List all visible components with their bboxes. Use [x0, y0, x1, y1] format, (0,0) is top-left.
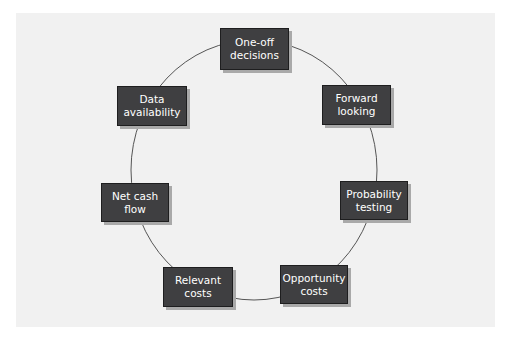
node-label: Probability testing	[344, 188, 404, 214]
node-data-availability: Data availability	[117, 86, 187, 126]
node-label: Net cash flow	[105, 190, 165, 216]
node-label: Data availability	[121, 93, 183, 119]
node-forward-looking: Forward looking	[322, 85, 391, 125]
node-probability-testing: Probability testing	[340, 181, 408, 220]
node-opportunity-costs: Opportunity costs	[280, 265, 348, 304]
node-label: One-off decisions	[224, 36, 285, 62]
node-net-cash-flow: Net cash flow	[101, 183, 169, 222]
node-relevant-costs: Relevant costs	[163, 267, 233, 307]
node-label: Relevant costs	[167, 274, 229, 300]
node-label: Forward looking	[326, 92, 387, 118]
node-label: Opportunity costs	[283, 272, 346, 298]
figure-caption	[16, 334, 316, 341]
node-one-off-decisions: One-off decisions	[220, 28, 289, 70]
